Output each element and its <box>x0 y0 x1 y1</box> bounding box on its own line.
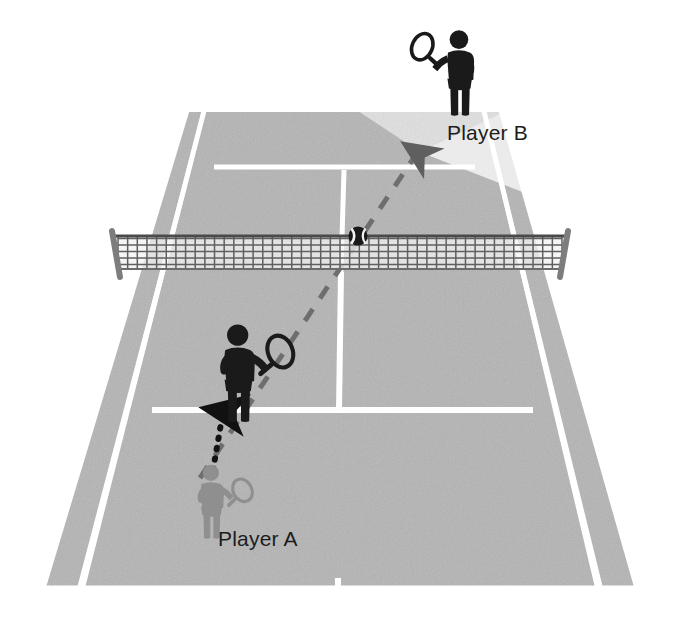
player-a-leg-left <box>203 514 210 539</box>
player-a-torso <box>201 482 224 509</box>
player-a-moved-leg-right <box>241 389 250 422</box>
player-b-leg-left <box>450 87 458 116</box>
tennis-court-diagram: Player B Player A <box>0 0 680 631</box>
court-illustration: Player B Player A <box>0 0 680 631</box>
player-b-leg-right <box>462 87 470 116</box>
player-b-figure <box>407 30 474 116</box>
player-a-moved-head <box>227 324 248 345</box>
player-a-moved-torso <box>225 347 255 383</box>
player-a-moved-leg-left <box>228 389 237 422</box>
player-b-label: Player B <box>447 121 528 144</box>
player-a-label: Player A <box>218 527 298 550</box>
net-mesh <box>114 236 566 270</box>
player-b-racket <box>407 30 438 66</box>
player-b-racket-handle <box>430 58 439 66</box>
tennis-ball-group <box>349 227 368 246</box>
player-b-head <box>450 30 469 49</box>
center-service-line-near <box>339 272 341 410</box>
player-a-head <box>203 465 219 481</box>
